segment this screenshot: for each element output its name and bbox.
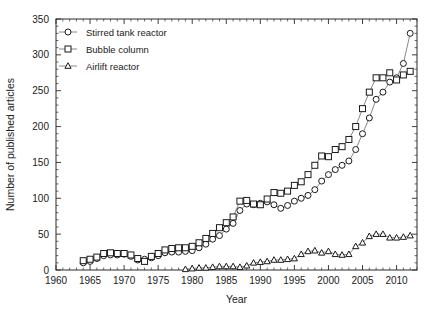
y-tick-label: 150 — [32, 157, 49, 168]
data-point — [80, 258, 86, 264]
data-point — [298, 251, 304, 257]
data-point — [373, 75, 379, 81]
data-point — [216, 225, 222, 231]
x-tick-label: 2005 — [351, 275, 374, 286]
data-point — [353, 243, 359, 249]
data-point — [176, 245, 182, 251]
x-tick-label: 1980 — [181, 275, 204, 286]
x-tick-label: 1995 — [283, 275, 306, 286]
data-point — [325, 154, 331, 160]
data-point — [114, 251, 120, 257]
data-point — [291, 198, 297, 204]
data-point — [128, 252, 134, 258]
data-point — [387, 79, 393, 85]
y-axis-title: Number of published articles — [4, 78, 16, 211]
data-point — [169, 245, 175, 251]
data-point — [135, 256, 141, 262]
data-point — [305, 172, 311, 178]
data-point — [196, 240, 202, 246]
data-point — [312, 187, 318, 193]
data-point — [210, 230, 216, 236]
chart-container: 1960196519701975198019851990199520002005… — [0, 0, 429, 319]
data-point — [325, 248, 331, 254]
data-point — [380, 75, 386, 81]
x-tick-label: 1970 — [113, 275, 136, 286]
data-point — [216, 263, 222, 269]
data-point — [285, 188, 291, 194]
data-point — [387, 70, 393, 76]
data-point — [196, 265, 202, 271]
data-point — [312, 162, 318, 168]
data-point — [101, 251, 107, 257]
data-point — [203, 235, 209, 241]
data-point — [271, 202, 277, 208]
data-point — [407, 68, 413, 74]
data-point — [244, 197, 250, 203]
data-point — [407, 232, 413, 238]
data-point — [291, 182, 297, 188]
x-axis-title: Year — [226, 293, 248, 305]
data-point — [305, 192, 311, 198]
data-point — [223, 226, 229, 232]
data-point — [360, 106, 366, 112]
data-point — [230, 214, 236, 220]
x-tick-label: 2000 — [317, 275, 340, 286]
legend-marker-triangle — [65, 63, 71, 69]
data-point — [346, 136, 352, 142]
y-tick-label: 50 — [38, 229, 50, 240]
data-point — [339, 144, 345, 150]
data-point — [387, 234, 393, 240]
chart-legend: Stirred tank reactorBubble columnAirlift… — [59, 27, 167, 72]
y-tick-label: 0 — [43, 265, 49, 276]
data-point — [264, 196, 270, 202]
data-point — [353, 147, 359, 153]
x-tick-label: 1960 — [45, 275, 68, 286]
data-point — [353, 124, 359, 130]
data-point — [346, 158, 352, 164]
data-point — [87, 256, 93, 262]
data-point — [230, 263, 236, 269]
data-point — [94, 254, 100, 260]
data-point — [216, 233, 222, 239]
legend-label: Bubble column — [86, 44, 149, 55]
data-point — [223, 220, 229, 226]
data-point — [162, 247, 168, 253]
data-point — [394, 77, 400, 83]
data-point — [230, 220, 236, 226]
y-tick-label: 350 — [32, 14, 49, 25]
data-point — [182, 245, 188, 251]
data-point — [360, 131, 366, 137]
data-point — [189, 243, 195, 249]
data-point — [373, 96, 379, 102]
data-point — [155, 251, 161, 257]
x-tick-label: 2010 — [385, 275, 408, 286]
data-point — [148, 253, 154, 259]
y-tick-label: 300 — [32, 49, 49, 60]
data-point — [332, 147, 338, 153]
data-point — [400, 72, 406, 78]
data-point — [380, 231, 386, 237]
data-point — [366, 89, 372, 95]
data-point — [223, 263, 229, 269]
publication-trend-chart: 1960196519701975198019851990199520002005… — [0, 0, 429, 319]
data-point — [319, 178, 325, 184]
plot-frame — [56, 19, 417, 270]
legend-label: Airlift reactor — [86, 61, 139, 72]
x-tick-label: 1990 — [249, 275, 272, 286]
data-point — [373, 231, 379, 237]
legend-marker-circle — [65, 29, 71, 35]
x-tick-label: 1985 — [215, 275, 238, 286]
data-point — [407, 30, 413, 36]
data-point — [271, 257, 277, 263]
data-point — [291, 255, 297, 261]
data-point — [400, 60, 406, 66]
data-point — [142, 258, 148, 264]
data-point — [339, 162, 345, 168]
data-point — [332, 167, 338, 173]
data-point — [257, 202, 263, 208]
x-tick-label: 1965 — [79, 275, 102, 286]
data-point — [107, 250, 113, 256]
y-tick-label: 200 — [32, 121, 49, 132]
data-point — [298, 179, 304, 185]
data-point — [325, 172, 331, 178]
